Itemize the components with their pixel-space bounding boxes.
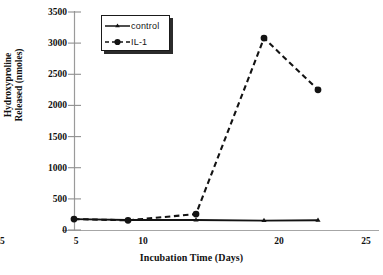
y-axis-title-line2: Released (nmoles) [14,15,25,155]
x-axis-title: Incubation Time (Days) [0,252,383,263]
y-axis-title: Hydroxyproline Released (nmoles) [3,15,25,155]
y-tick-500: 500 [53,194,67,204]
x-axis-tick-labels: 5 10 15 20 25 [0,236,383,250]
y-tick-1000: 1000 [48,163,67,173]
legend-label-control: control [131,21,159,31]
x-tick-15: 15 [0,236,5,246]
legend-label-il1: IL-1 [131,37,147,47]
x-tick-20: 20 [274,236,284,246]
y-tick-3500: 3500 [48,7,67,17]
y-tick-2000: 2000 [48,100,67,110]
series-markers-il1 [71,35,322,224]
x-tick-10: 10 [138,236,148,246]
legend-item-control: control [102,17,169,34]
legend-swatch-control-icon [104,19,131,33]
y-axis-title-line1: Hydroxyproline [3,15,14,155]
chart-figure: 3500 3000 2500 2000 1500 1000 500 0 5 10… [0,0,383,275]
y-tick-1500: 1500 [48,132,67,142]
y-tick-0: 0 [62,225,67,235]
chart-legend: control IL-1 [101,15,170,51]
x-tick-5: 5 [74,236,79,246]
legend-swatch-il1-icon [104,35,131,49]
x-tick-25: 25 [361,236,371,246]
y-tick-3000: 3000 [48,38,67,48]
series-line-il1 [74,38,318,220]
legend-item-il1: IL-1 [102,33,169,50]
y-tick-2500: 2500 [48,69,67,79]
y-axis-tick-labels: 3500 3000 2500 2000 1500 1000 500 0 [34,0,67,275]
